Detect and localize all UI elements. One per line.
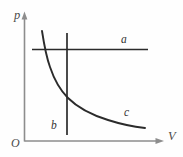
figure-canvas: [0, 0, 183, 157]
process-curve-c: [42, 31, 145, 128]
pv-diagram-figure: p V O a b c: [0, 0, 183, 157]
curve-label-b: b: [51, 120, 57, 132]
p-axis-label: p: [14, 9, 20, 22]
v-axis-arrowhead: [156, 138, 165, 144]
p-axis-arrowhead: [22, 12, 28, 20]
curve-label-c: c: [124, 107, 129, 119]
curve-label-a: a: [121, 34, 127, 46]
origin-label: O: [11, 137, 20, 149]
v-axis-label: V: [168, 130, 176, 143]
